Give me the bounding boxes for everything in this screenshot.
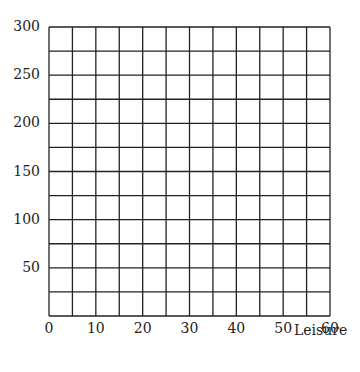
chart-grid [0, 0, 360, 372]
y-tick-label: 100 [2, 211, 40, 227]
x-tick-label: 20 [128, 320, 158, 336]
y-tick-label: 200 [2, 114, 40, 130]
x-axis-title: Leisure [294, 322, 347, 338]
y-tick-label: 150 [2, 163, 40, 179]
y-tick-label: 300 [2, 18, 40, 34]
x-tick-label: 40 [221, 320, 251, 336]
y-tick-label: 250 [2, 66, 40, 82]
y-tick-label: 50 [2, 259, 40, 275]
x-tick-label: 10 [81, 320, 111, 336]
x-tick-label: 30 [175, 320, 205, 336]
x-tick-label: 0 [34, 320, 64, 336]
